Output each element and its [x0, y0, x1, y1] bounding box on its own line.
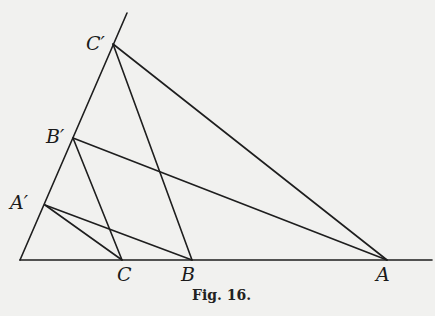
label-b-prime: B′ — [46, 127, 64, 146]
label-a-prime: A′ — [10, 193, 28, 212]
label-a: A — [376, 265, 390, 284]
label-c-prime: C′ — [86, 34, 105, 53]
diagram-lines — [0, 0, 435, 316]
geometry-figure: C′ B′ A′ C B A Fig. 16. — [0, 0, 435, 316]
figure-caption: Fig. 16. — [192, 288, 251, 302]
segment-oblique-ray — [20, 13, 127, 260]
label-b: B — [181, 265, 195, 284]
label-c: C — [117, 265, 132, 284]
segment-C1-B — [113, 44, 192, 260]
segment-C1-A — [113, 44, 387, 260]
segment-B1-A — [73, 138, 387, 260]
